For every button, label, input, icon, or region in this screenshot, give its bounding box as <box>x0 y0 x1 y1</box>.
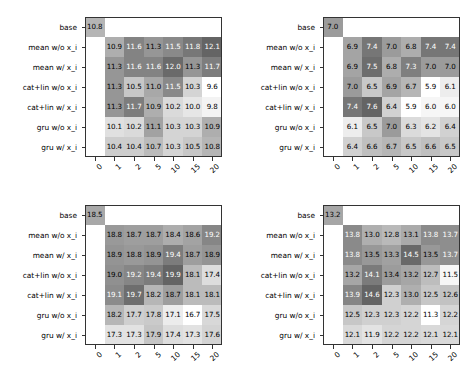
y-tick-label: gru w/o x_i <box>238 305 319 325</box>
y-tick-mark <box>82 295 86 296</box>
y-tick-mark <box>82 255 86 256</box>
y-axis-labels: basemean w/o x_imean w/ x_icat+lin w/o x… <box>238 205 319 345</box>
x-tick-mark <box>372 157 373 161</box>
y-tick-mark <box>320 47 324 48</box>
x-tick-label: 20 <box>446 162 459 175</box>
y-tick-label: mean w/ x_i <box>0 57 81 77</box>
y-tick-mark <box>320 127 324 128</box>
y-tick-label: gru w/o x_i <box>0 117 81 137</box>
y-tick-label: cat+lin w/o x_i <box>0 77 81 97</box>
x-tick-label: 0 <box>94 350 104 360</box>
y-tick-label: mean w/o x_i <box>238 225 319 245</box>
x-tick-label: 2 <box>371 350 381 360</box>
x-tick-mark <box>173 157 174 161</box>
y-tick-mark <box>82 47 86 48</box>
x-tick-label: 10 <box>407 162 420 175</box>
plot-area: 7.06.97.47.06.87.47.46.97.56.87.37.07.07… <box>323 17 460 157</box>
y-tick-mark <box>82 27 86 28</box>
x-tick-mark <box>431 345 432 349</box>
y-tick-label: gru w/ x_i <box>0 137 81 157</box>
heatmap-figure: 10.810.911.611.311.511.812.111.311.611.6… <box>0 0 476 377</box>
x-tick-mark <box>450 157 451 161</box>
x-tick-mark <box>212 157 213 161</box>
y-tick-mark <box>320 107 324 108</box>
y-tick-mark <box>82 315 86 316</box>
y-tick-mark <box>320 87 324 88</box>
x-tick-label: 1 <box>114 162 124 172</box>
y-tick-mark <box>82 215 86 216</box>
heatmap-panel-top-right: 7.06.97.47.06.87.47.46.97.56.87.37.07.07… <box>238 0 476 188</box>
x-tick-mark <box>411 157 412 161</box>
x-tick-mark <box>95 157 96 161</box>
y-tick-label: gru w/o x_i <box>0 305 81 325</box>
y-tick-label: gru w/o x_i <box>238 117 319 137</box>
y-tick-label: cat+lin w/ x_i <box>238 285 319 305</box>
x-tick-mark <box>333 157 334 161</box>
y-tick-mark <box>320 67 324 68</box>
x-tick-label: 0 <box>332 350 342 360</box>
x-tick-label: 1 <box>114 350 124 360</box>
x-tick-mark <box>372 345 373 349</box>
y-tick-mark <box>82 87 86 88</box>
x-tick-mark <box>193 345 194 349</box>
x-tick-mark <box>352 157 353 161</box>
x-tick-label: 1 <box>352 350 362 360</box>
x-tick-mark <box>134 157 135 161</box>
x-tick-label: 0 <box>94 162 104 172</box>
x-tick-mark <box>212 345 213 349</box>
y-tick-label: base <box>0 17 81 37</box>
y-tick-label: mean w/ x_i <box>238 57 319 77</box>
y-tick-label: base <box>238 17 319 37</box>
y-tick-mark <box>320 255 324 256</box>
x-tick-label: 5 <box>391 350 401 360</box>
x-axis-labels: 0125101520 <box>323 345 460 377</box>
y-tick-label: cat+lin w/o x_i <box>238 265 319 285</box>
x-tick-mark <box>411 345 412 349</box>
x-tick-mark <box>392 345 393 349</box>
y-tick-mark <box>82 107 86 108</box>
y-tick-label: base <box>238 205 319 225</box>
x-tick-mark <box>333 345 334 349</box>
y-tick-mark <box>320 147 324 148</box>
plot-area: 18.518.818.718.718.418.619.218.918.818.9… <box>85 205 222 345</box>
y-tick-mark <box>82 235 86 236</box>
y-tick-label: cat+lin w/o x_i <box>0 265 81 285</box>
y-tick-label: gru w/ x_i <box>238 325 319 345</box>
y-tick-mark <box>82 127 86 128</box>
x-tick-label: 15 <box>427 350 440 363</box>
x-tick-label: 15 <box>189 350 202 363</box>
x-axis-labels: 0125101520 <box>85 345 222 377</box>
y-axis-labels: basemean w/o x_imean w/ x_icat+lin w/o x… <box>238 17 319 157</box>
y-tick-mark <box>320 295 324 296</box>
axes-frame <box>323 17 460 157</box>
x-tick-mark <box>134 345 135 349</box>
heatmap-panel-bottom-left: 18.518.818.718.718.418.619.218.918.818.9… <box>0 188 238 376</box>
x-tick-label: 2 <box>371 162 381 172</box>
plot-area: 10.810.911.611.311.511.812.111.311.611.6… <box>85 17 222 157</box>
y-tick-mark <box>320 335 324 336</box>
y-tick-label: mean w/ x_i <box>0 245 81 265</box>
x-tick-label: 15 <box>427 162 440 175</box>
heatmap-panel-top-left: 10.810.911.611.311.511.812.111.311.611.6… <box>0 0 238 188</box>
y-tick-label: mean w/o x_i <box>0 225 81 245</box>
y-tick-mark <box>82 147 86 148</box>
y-tick-label: mean w/o x_i <box>238 37 319 57</box>
y-tick-mark <box>320 315 324 316</box>
y-tick-mark <box>320 27 324 28</box>
y-tick-mark <box>320 235 324 236</box>
x-tick-mark <box>154 345 155 349</box>
y-tick-label: cat+lin w/ x_i <box>0 97 81 117</box>
x-tick-mark <box>114 157 115 161</box>
y-tick-label: cat+lin w/o x_i <box>238 77 319 97</box>
x-tick-mark <box>352 345 353 349</box>
x-tick-mark <box>95 345 96 349</box>
x-tick-label: 2 <box>133 162 143 172</box>
y-tick-mark <box>320 215 324 216</box>
y-tick-label: cat+lin w/ x_i <box>0 285 81 305</box>
y-tick-mark <box>320 275 324 276</box>
heatmap-panel-bottom-right: 13.213.813.012.813.113.813.713.813.513.3… <box>238 188 476 376</box>
y-tick-mark <box>82 335 86 336</box>
x-tick-mark <box>392 157 393 161</box>
x-tick-label: 1 <box>352 162 362 172</box>
y-tick-mark <box>82 67 86 68</box>
